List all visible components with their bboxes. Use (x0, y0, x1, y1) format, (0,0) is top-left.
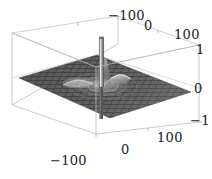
tick-label-y-minus100: −100 (108, 9, 145, 22)
tick-label-y-100: 100 (174, 28, 200, 41)
tick-label-x-100: 100 (157, 131, 183, 144)
tick-label-z-0: 0 (194, 82, 203, 95)
surface-plot-figure: −100 0 100 1 0 −1 100 0 −100 (0, 0, 212, 179)
surface-mesh (19, 50, 191, 118)
tick-label-y-zero: 0 (144, 19, 153, 32)
tick-label-z-1: 1 (196, 43, 205, 56)
tick-label-x-minus100: −100 (50, 154, 87, 167)
tick-label-z-minus1: −1 (190, 114, 210, 127)
tick-label-x-zero: 0 (121, 143, 130, 156)
